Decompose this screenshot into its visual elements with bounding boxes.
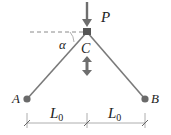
label-span-right: L0	[107, 105, 121, 123]
truss-diagram: P α C A B L0 L0	[0, 0, 171, 135]
label-span-left: L0	[49, 105, 63, 123]
label-load-p: P	[100, 9, 110, 25]
dimension-line	[24, 113, 148, 128]
load-arrow-icon	[82, 2, 92, 27]
support-a	[23, 95, 30, 102]
label-support-b: B	[151, 91, 159, 106]
member-ac	[27, 32, 87, 99]
support-b	[141, 95, 148, 102]
label-support-a: A	[11, 91, 20, 106]
label-joint-c: C	[81, 41, 91, 56]
joint-c	[83, 28, 91, 35]
vertical-displacement-arrow-icon	[82, 56, 92, 76]
label-angle-alpha: α	[59, 37, 67, 52]
member-bc	[87, 32, 145, 99]
angle-arc	[70, 32, 74, 42]
